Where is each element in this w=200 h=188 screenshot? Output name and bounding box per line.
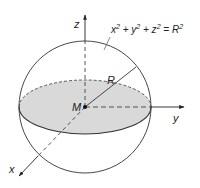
- x-axis-label: x: [8, 163, 15, 175]
- x-axis-outer: [19, 156, 38, 176]
- equation-leader-line: [104, 37, 110, 50]
- radius-label: R: [107, 74, 115, 86]
- sphere-diagram: z y x R M x2 + y2 + z2 = R2: [0, 0, 200, 188]
- z-axis-label: z: [73, 18, 80, 30]
- center-point: [83, 105, 87, 109]
- center-label: M: [72, 101, 82, 113]
- y-axis-label: y: [172, 112, 180, 124]
- sphere-equation: x2 + y2 + z2 = R2: [110, 23, 183, 35]
